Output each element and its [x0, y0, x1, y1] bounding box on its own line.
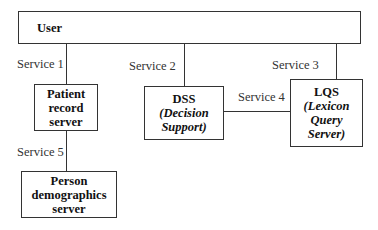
node-patient-line-2: record	[48, 101, 83, 115]
node-lqs-title: LQS	[314, 85, 339, 99]
node-dss-title: DSS	[173, 92, 196, 106]
edge-label-service-2: Service 2	[129, 59, 176, 74]
node-person-demographics-server: Person demographics server	[21, 171, 117, 218]
edge-patient-person	[66, 131, 67, 171]
node-lqs-subtitle-1: (Lexicon	[304, 99, 350, 113]
node-person-line-1: Person	[51, 174, 88, 188]
node-lqs-subtitle-2: Query	[311, 113, 343, 127]
edge-label-service-3: Service 3	[272, 58, 319, 73]
node-dss: DSS (Decision Support)	[144, 86, 224, 140]
edge-label-service-5: Service 5	[17, 145, 64, 160]
edge-user-patient	[66, 43, 67, 84]
edge-user-lqs	[336, 43, 337, 79]
node-patient-line-1: Patient	[47, 87, 85, 101]
node-patient-line-3: server	[49, 115, 82, 129]
edge-user-dss	[184, 43, 185, 86]
node-dss-subtitle-2: Support)	[161, 120, 206, 134]
node-person-line-2: demographics	[32, 188, 107, 202]
node-patient-record-server: Patient record server	[34, 84, 98, 131]
node-person-line-3: server	[52, 202, 85, 216]
edge-label-service-4: Service 4	[238, 90, 285, 105]
node-user-label: User	[37, 21, 62, 35]
node-lqs-subtitle-3: Server)	[308, 127, 346, 141]
node-dss-subtitle-1: (Decision	[159, 106, 208, 120]
node-lqs: LQS (Lexicon Query Server)	[290, 79, 363, 147]
edge-label-service-1: Service 1	[17, 57, 64, 72]
edge-dss-lqs	[223, 111, 291, 112]
node-user: User	[18, 11, 361, 44]
